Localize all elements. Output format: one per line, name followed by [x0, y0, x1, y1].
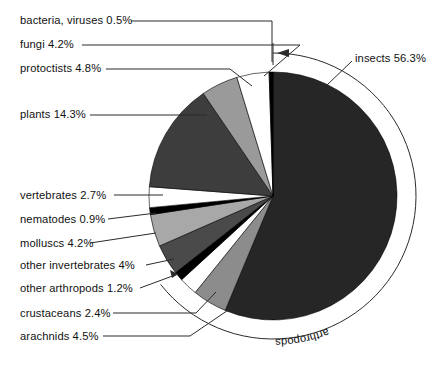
pie-slices-group: insects 56.3%arachnids 4.5%crustaceans 2… — [149, 72, 397, 320]
label-crustaceans: crustaceans 2.4% — [20, 307, 111, 319]
label-protoctists: protoctists 4.8% — [20, 62, 101, 74]
pie-chart-svg: arthropods insects 56.3%arachnids 4.5%cr… — [0, 0, 446, 366]
leader-bacteria — [131, 21, 272, 62]
pie-chart-figure: arthropods insects 56.3%arachnids 4.5%cr… — [0, 0, 446, 366]
leader-fungi — [82, 45, 300, 76]
label-nematodes: nematodes 0.9% — [20, 213, 105, 225]
label-vertebrates: vertebrates 2.7% — [20, 189, 106, 201]
arthropods-arc-label: arthropods — [275, 326, 331, 349]
label-bacteria-viruses: bacteria, viruses 0.5% — [20, 14, 132, 26]
label-other-invertebrates: other invertebrates 4% — [20, 259, 135, 271]
arthropods-arc-label-text: arthropods — [275, 326, 331, 349]
label-insects: insects 56.3% — [355, 52, 426, 64]
leader-nematodes — [108, 213, 156, 219]
label-other-arthropods: other arthropods 1.2% — [20, 282, 133, 294]
label-fungi: fungi 4.2% — [20, 38, 74, 50]
leader-molluscs — [90, 233, 156, 243]
label-molluscs: molluscs 4.2% — [20, 237, 93, 249]
label-plants: plants 14.3% — [20, 108, 86, 120]
label-arachnids: arachnids 4.5% — [20, 330, 99, 342]
